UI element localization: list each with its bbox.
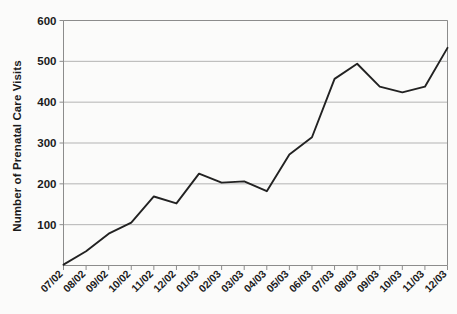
x-tick-label: 08/02 xyxy=(60,267,87,294)
x-tick-label: 11/02 xyxy=(129,267,156,294)
y-tick-label: 300 xyxy=(37,137,56,149)
x-tick-labels-group: 07/0208/0209/0210/0211/0212/0201/0302/03… xyxy=(38,267,449,294)
chart-plot-area: 100200300400500600 07/0208/0209/0210/021… xyxy=(0,0,457,314)
x-tick-label: 10/03 xyxy=(377,267,404,294)
x-tick-label: 09/02 xyxy=(83,267,110,294)
y-tick-label: 500 xyxy=(37,55,56,67)
y-axis-title: Number of Prenatal Care Visits xyxy=(8,6,26,286)
x-tick-label: 03/03 xyxy=(219,267,246,294)
y-tick-label: 600 xyxy=(37,15,56,27)
y-tick-labels-group: 100200300400500600 xyxy=(37,15,56,231)
y-tick-label: 100 xyxy=(37,219,56,231)
x-tick-label: 04/03 xyxy=(241,267,268,294)
x-tick-label: 12/02 xyxy=(151,267,178,294)
x-tick-label: 11/03 xyxy=(400,267,427,294)
x-tick-label: 06/03 xyxy=(286,267,313,294)
x-tick-label: 02/03 xyxy=(196,267,223,294)
prenatal-care-visits-line-chart: Number of Prenatal Care Visits 100200300… xyxy=(0,0,457,314)
x-tick-label: 09/03 xyxy=(354,267,381,294)
x-tick-label: 12/03 xyxy=(422,267,449,294)
gridlines-group xyxy=(60,21,448,225)
y-tick-label: 400 xyxy=(37,96,56,108)
x-tick-label: 07/03 xyxy=(309,267,336,294)
x-tick-label: 05/03 xyxy=(264,267,291,294)
x-tick-label: 08/03 xyxy=(331,267,358,294)
x-tick-label: 07/02 xyxy=(38,267,65,294)
x-tick-label: 01/03 xyxy=(173,267,200,294)
y-tick-label: 200 xyxy=(37,178,56,190)
x-tick-label: 10/02 xyxy=(106,267,133,294)
data-series-line xyxy=(64,48,448,265)
